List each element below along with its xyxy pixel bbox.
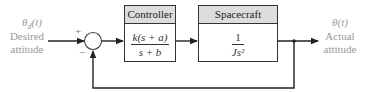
output-label-line2: attitude bbox=[318, 43, 362, 55]
minus-sign: − bbox=[79, 46, 85, 58]
controller-denominator: s + b bbox=[131, 45, 170, 58]
spacecraft-block: Spacecraft 1 Js² bbox=[198, 5, 278, 62]
spacecraft-numerator: 1 bbox=[232, 31, 244, 45]
output-label-line1: Actual bbox=[318, 30, 362, 42]
spacecraft-transfer-function: 1 Js² bbox=[232, 31, 244, 58]
spacecraft-title: Spacecraft bbox=[199, 6, 277, 24]
controller-transfer-function: k(s + a) s + b bbox=[131, 31, 170, 58]
input-symbol-arg: (t) bbox=[32, 16, 42, 28]
plus-sign: + bbox=[75, 25, 81, 37]
input-label-line2: attitude bbox=[4, 43, 50, 55]
spacecraft-denominator: Js² bbox=[232, 45, 244, 58]
summing-junction-icon bbox=[85, 33, 102, 50]
controller-numerator: k(s + a) bbox=[131, 31, 170, 45]
controller-title: Controller bbox=[125, 6, 175, 24]
output-symbol: θ(t) bbox=[320, 16, 360, 28]
input-label-line1: Desired bbox=[4, 30, 50, 42]
controller-block: Controller k(s + a) s + b bbox=[124, 5, 176, 62]
connections bbox=[0, 0, 365, 92]
